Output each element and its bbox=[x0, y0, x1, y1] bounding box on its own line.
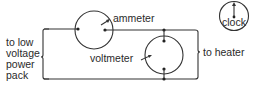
voltmeter-bottom-node bbox=[162, 77, 165, 80]
clock: clock bbox=[220, 2, 249, 31]
arrowhead-icon bbox=[148, 55, 152, 58]
ammeter-label: ammeter bbox=[113, 12, 155, 24]
heater-brace bbox=[195, 30, 200, 79]
power-pack-label: to low voltage power pack bbox=[6, 36, 40, 81]
heater-label: to heater bbox=[203, 46, 245, 58]
ammeter-left-terminal bbox=[76, 27, 79, 30]
power-pack-brace bbox=[41, 29, 49, 79]
circuit-diagram: ammeter voltmeter to heater to low volta… bbox=[0, 0, 254, 89]
arrowhead-icon bbox=[232, 2, 236, 6]
voltmeter-label: voltmeter bbox=[90, 52, 134, 64]
voltmeter bbox=[141, 28, 183, 80]
power-pack-label-line-4: pack bbox=[6, 69, 29, 81]
clock-label: clock bbox=[222, 16, 247, 28]
voltmeter-top-terminal bbox=[162, 39, 165, 42]
